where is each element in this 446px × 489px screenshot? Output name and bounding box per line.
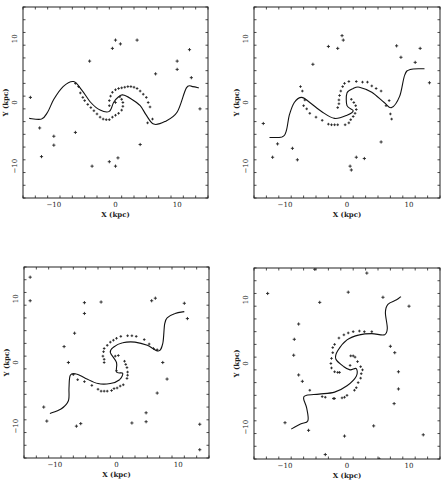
arm-point-marker [147, 101, 150, 104]
field-point-marker [52, 135, 55, 138]
arm-point-marker [341, 397, 344, 400]
arm-point-marker [123, 86, 126, 89]
arm-point-marker [116, 387, 119, 390]
x-axis-label: X (kpc) [333, 210, 362, 219]
arm-point-marker [340, 90, 343, 93]
arm-point-marker [145, 96, 148, 99]
field-point-marker [165, 377, 168, 380]
field-point-marker [397, 370, 400, 373]
field-point-marker [291, 147, 294, 150]
x-tick-label: −10 [47, 461, 62, 469]
field-point-marker [297, 322, 300, 325]
field-point-marker [145, 411, 148, 414]
arm-point-marker [363, 330, 366, 333]
arm-point-marker [122, 383, 125, 386]
arm-point-marker [109, 341, 112, 344]
arm-point-marker [139, 90, 142, 93]
panel-top-right: −10010−10010X (kpc)Y (kpc) [232, 7, 440, 219]
arm-point-marker [327, 123, 330, 126]
x-tick-label: 10 [174, 461, 183, 469]
arm-point-marker [91, 384, 94, 387]
field-point-marker [293, 338, 296, 341]
arm-point-marker [360, 372, 363, 375]
x-tick-label: 0 [345, 201, 349, 209]
field-point-marker [29, 276, 32, 279]
arm-point-marker [111, 116, 114, 119]
arm-point-marker [120, 98, 123, 101]
arm-point-marker [112, 339, 115, 342]
arm-point-marker [97, 388, 100, 391]
field-point-marker [139, 143, 142, 146]
field-point-marker [176, 60, 179, 63]
arm-point-marker [119, 385, 122, 388]
field-point-marker [154, 297, 157, 300]
arm-point-marker [358, 330, 361, 333]
field-point-marker [349, 165, 352, 168]
arm-point-marker [359, 365, 362, 368]
field-point-marker [372, 424, 375, 427]
model-spiral-curve [291, 297, 401, 430]
field-point-marker [114, 165, 117, 168]
arm-point-marker [114, 355, 117, 358]
field-point-marker [380, 140, 383, 143]
field-point-marker [135, 39, 138, 42]
field-point-marker [52, 144, 55, 147]
field-point-marker [355, 156, 358, 159]
field-point-marker [188, 48, 191, 51]
arm-point-marker [355, 108, 358, 111]
arm-point-marker [336, 106, 339, 109]
field-point-marker [311, 63, 314, 66]
arm-point-marker [353, 389, 356, 392]
arm-point-marker [309, 112, 312, 115]
arm-point-marker [120, 109, 123, 112]
arm-point-marker [114, 114, 117, 117]
x-tick-label: 10 [173, 201, 182, 209]
arm-point-marker [330, 357, 333, 360]
arm-point-marker [343, 82, 346, 85]
arm-point-marker [380, 90, 383, 93]
arm-point-marker [357, 381, 360, 384]
x-tick-label: 10 [405, 201, 414, 209]
arm-point-marker [321, 395, 324, 398]
field-point-marker [399, 56, 402, 59]
panel-top-left: −10010−10010X (kpc)Y (kpc) [1, 7, 208, 219]
field-point-marker [62, 345, 65, 348]
arm-point-marker [103, 390, 106, 393]
arm-point-marker [111, 91, 114, 94]
arm-point-marker [122, 101, 125, 104]
arm-point-marker [106, 390, 109, 393]
field-point-marker [198, 107, 201, 110]
y-tick-label: 10 [12, 294, 20, 303]
arm-point-marker [352, 330, 355, 333]
arm-point-marker [126, 371, 129, 374]
arm-point-marker [331, 346, 334, 349]
plot-area [29, 39, 202, 168]
field-point-marker [296, 158, 299, 161]
arm-point-marker [102, 355, 105, 358]
arm-point-marker [115, 337, 118, 340]
figure-canvas: −10010−10010X (kpc)Y (kpc) −10010−10010X… [0, 0, 446, 489]
field-point-marker [381, 296, 384, 299]
arm-point-marker [388, 99, 391, 102]
x-axis-label: X (kpc) [102, 470, 131, 479]
field-point-marker [119, 42, 122, 45]
field-point-marker [350, 168, 353, 171]
field-point-marker [363, 157, 366, 160]
field-point-marker [395, 44, 398, 47]
arm-point-marker [123, 360, 126, 363]
field-point-marker [116, 156, 119, 159]
arm-point-marker [131, 334, 134, 337]
field-point-marker [266, 292, 269, 295]
field-point-marker [40, 155, 43, 158]
y-tick-label: 10 [11, 34, 19, 43]
field-point-marker [407, 305, 410, 308]
arm-point-marker [96, 113, 99, 116]
field-point-marker [422, 433, 425, 436]
y-tick-label: 0 [242, 100, 250, 104]
field-point-marker [38, 126, 41, 129]
x-tick-label: −10 [278, 462, 293, 470]
field-point-marker [414, 61, 417, 64]
field-point-marker [271, 156, 274, 159]
field-point-marker [83, 301, 86, 304]
arm-point-marker [110, 389, 113, 392]
